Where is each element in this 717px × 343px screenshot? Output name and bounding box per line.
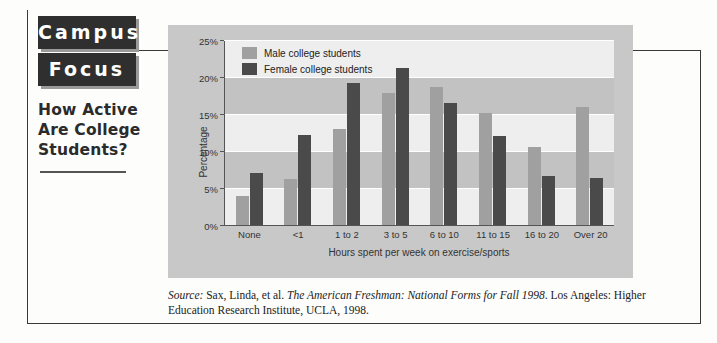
bar (542, 176, 555, 225)
source-title: The American Freshman: National Forms fo… (287, 289, 545, 301)
source-authors: Sax, Linda, et al. (203, 289, 287, 301)
bar (333, 129, 346, 225)
source-note: Source: Sax, Linda, et al. The American … (168, 288, 668, 318)
logo-focus: Focus (38, 53, 136, 86)
legend-item: Male college students (242, 47, 372, 59)
bar (479, 113, 492, 225)
bar (298, 135, 311, 225)
frame-rule-bottom (27, 323, 701, 324)
bar (528, 147, 541, 225)
bar (250, 173, 263, 225)
bar (347, 83, 360, 225)
bar (590, 178, 603, 225)
legend-swatch (242, 47, 257, 59)
bar (444, 103, 457, 225)
x-tick-label: 16 to 20 (518, 229, 567, 240)
bar (493, 136, 506, 225)
masthead: Campus Focus How Active Are College Stud… (38, 16, 146, 173)
x-tick-label: <1 (274, 229, 323, 240)
bar (236, 196, 249, 225)
x-tick-label: 1 to 2 (323, 229, 372, 240)
chart-panel: Percentage 0%5%10%15%20%25% Male college… (168, 25, 633, 278)
x-axis-label: Hours spent per week on exercise/sports (224, 247, 614, 258)
x-tick-label: 11 to 15 (469, 229, 518, 240)
frame-rule-left (27, 10, 28, 324)
bar-group (371, 41, 420, 225)
headline-divider (40, 171, 126, 173)
y-tick-label: 15% (199, 110, 218, 121)
x-axis-line (224, 225, 614, 226)
y-tick-label: 10% (199, 147, 218, 158)
x-tick-label: 3 to 5 (371, 229, 420, 240)
bar (284, 179, 297, 225)
chart-legend: Male college studentsFemale college stud… (242, 47, 372, 79)
x-tick-label: 6 to 10 (420, 229, 469, 240)
legend-swatch (242, 63, 257, 75)
frame-rule-right (700, 50, 701, 324)
y-tick-label: 25% (199, 36, 218, 47)
x-tick-label: None (225, 229, 274, 240)
legend-label: Female college students (264, 64, 372, 75)
x-axis-ticks: None<11 to 23 to 56 to 1011 to 1516 to 2… (225, 229, 615, 240)
bar-group (420, 41, 469, 225)
bar (382, 93, 395, 225)
legend-item: Female college students (242, 63, 372, 75)
bar-group (468, 41, 517, 225)
logo-campus: Campus (38, 16, 136, 49)
legend-label: Male college students (264, 48, 361, 59)
bar (396, 68, 409, 225)
y-tick-label: 20% (199, 73, 218, 84)
source-label: Source: (168, 289, 203, 301)
y-tick-label: 5% (204, 184, 218, 195)
bar-group (565, 41, 614, 225)
bar-group (517, 41, 566, 225)
x-tick-label: Over 20 (566, 229, 615, 240)
y-tick-label: 0% (204, 221, 218, 232)
bar (430, 87, 443, 225)
figure-page: Campus Focus How Active Are College Stud… (0, 0, 717, 343)
page-title: How Active Are College Students? (38, 100, 150, 160)
bar (576, 107, 589, 225)
